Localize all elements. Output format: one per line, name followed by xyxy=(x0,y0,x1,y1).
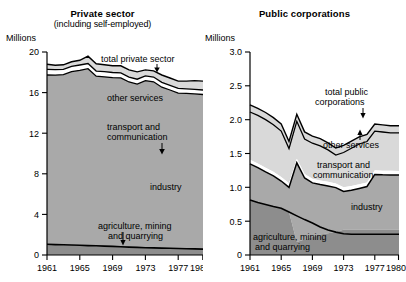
annotation-agriculture-line2: and quarrying xyxy=(255,242,310,252)
x-tick-label-1961: 1961 xyxy=(37,263,57,273)
annotation-total-public-line1: total public xyxy=(325,87,369,97)
chart-public-corporations: 0 0.5 1.0 1.5 2.0 2.5 3.0 1961 1965 1969… xyxy=(203,0,406,282)
panel-public-corporations: Public corporations Millions xyxy=(203,0,406,282)
y-axis-ticks xyxy=(42,52,47,255)
annotation-agriculture-line1: agriculture, mining xyxy=(98,221,172,231)
x-tick-label-1973: 1973 xyxy=(135,263,155,273)
annotation-transport-line2: communication xyxy=(107,132,168,142)
x-axis-ticks xyxy=(250,255,399,260)
x-tick-label-1973: 1973 xyxy=(334,263,354,273)
x-axis-ticks xyxy=(47,255,203,260)
x-tick-label-1961: 1961 xyxy=(240,263,260,273)
annotation-total-private-sector: total private sector xyxy=(101,54,175,64)
y-tick-label-1-5: 1.5 xyxy=(229,149,242,159)
annotation-total-public-line2: corporations xyxy=(315,97,365,107)
y-tick-label-2-0: 2.0 xyxy=(229,115,242,125)
chart-private-sector: 0 4 8 12 16 20 1961 1965 1969 1973 1977 … xyxy=(0,0,203,282)
x-tick-label-1977: 1977 xyxy=(168,263,188,273)
x-tick-label-1965: 1965 xyxy=(271,263,291,273)
annotation-agriculture-line2: and quarrying xyxy=(108,231,163,241)
y-axis-ticks xyxy=(245,52,250,255)
annotation-other-services: other services xyxy=(323,140,380,150)
y-tick-label-20: 20 xyxy=(29,47,39,57)
annotation-transport-line1: transport and xyxy=(107,122,160,132)
x-tick-label-1980: 1980 xyxy=(190,263,203,273)
x-tick-label-1969: 1969 xyxy=(302,263,322,273)
annotation-industry: industry xyxy=(351,202,383,212)
y-tick-label-2-5: 2.5 xyxy=(229,81,242,91)
x-tick-label-1969: 1969 xyxy=(103,263,123,273)
panel-private-sector: Private sector (including self-employed)… xyxy=(0,0,203,282)
y-tick-label-8: 8 xyxy=(34,169,39,179)
y-tick-label-0: 0 xyxy=(34,250,39,260)
y-tick-label-3-0: 3.0 xyxy=(229,47,242,57)
y-tick-label-1-0: 1.0 xyxy=(229,183,242,193)
annotation-transport-line1: transport and xyxy=(317,160,370,170)
y-tick-label-12: 12 xyxy=(29,129,39,139)
annotation-transport-line2: communication xyxy=(313,170,374,180)
figure-employment-by-sector: Private sector (including self-employed)… xyxy=(0,0,406,282)
x-tick-label-1965: 1965 xyxy=(70,263,90,273)
x-tick-label-1980: 1980 xyxy=(386,263,406,273)
y-tick-label-16: 16 xyxy=(29,88,39,98)
annotation-other-services: other services xyxy=(107,93,164,103)
x-tick-label-1977: 1977 xyxy=(365,263,385,273)
y-tick-label-4: 4 xyxy=(34,210,39,220)
leader-arrow-total-public xyxy=(360,113,365,119)
y-tick-label-0: 0 xyxy=(237,250,242,260)
annotation-industry: industry xyxy=(150,182,182,192)
leader-arrow-other-services xyxy=(357,130,362,136)
annotation-agriculture-line1: agriculture, mining xyxy=(253,232,327,242)
y-tick-label-0-5: 0.5 xyxy=(229,217,242,227)
